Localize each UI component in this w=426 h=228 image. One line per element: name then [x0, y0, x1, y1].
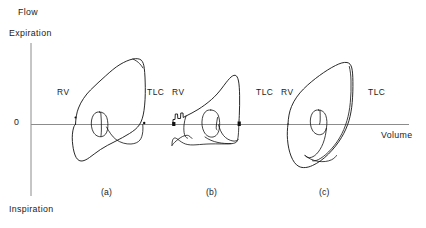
panel-c-right-marker-tlc: TLC — [368, 88, 385, 96]
flow-volume-loop-figure: Flow Expiration Inspiration 0 Volume RV … — [0, 0, 426, 228]
panel-b-tidal-inner-path — [216, 118, 217, 131]
panel-a-maximal-loop-path — [72, 59, 145, 161]
panel-b-left-marker-rv: RV — [172, 88, 185, 96]
panel-c-left-marker-rv: RV — [281, 88, 294, 96]
panel-b-rv-marker-block — [172, 122, 175, 126]
axes-group — [31, 43, 409, 196]
panel-b-caption: (b) — [206, 188, 217, 197]
panel-a-caption: (a) — [101, 188, 112, 197]
panel-a-traces — [72, 59, 145, 161]
panel-b-maximal-loop-path — [173, 75, 240, 124]
panel-a-rv-marker-dot — [75, 117, 77, 119]
panel-b-tlc-marker-block — [238, 122, 241, 127]
panel-b-lower-return-path — [172, 135, 192, 145]
y-axis-lower-direction-inspiration: Inspiration — [9, 205, 53, 214]
panel-c-second-limb-path — [313, 67, 352, 161]
panel-b-right-marker-tlc: TLC — [256, 88, 273, 96]
panel-a-tlc-marker-dot — [143, 122, 145, 124]
panel-c-tidal-inner-path — [320, 110, 321, 124]
y-axis-title-flow: Flow — [18, 8, 38, 17]
panel-b-inner-flow-2-path — [205, 137, 231, 144]
panel-b-inspiratory-limb-path — [172, 125, 239, 146]
panel-c-traces — [287, 62, 353, 167]
panel-c-caption: (c) — [319, 188, 330, 197]
x-axis-title-volume: Volume — [381, 131, 412, 140]
panel-c-inner-expiratory-path — [305, 128, 327, 158]
panel-a-left-marker-rv: RV — [57, 88, 70, 96]
origin-tick-label-zero: 0 — [14, 118, 19, 127]
panel-b-traces — [172, 75, 241, 145]
panel-b-inner-flow-path — [219, 125, 239, 141]
panel-a-right-marker-tlc: TLC — [147, 88, 164, 96]
y-axis-upper-direction-expiration: Expiration — [9, 29, 52, 38]
panel-c-tidal-loop-path — [310, 110, 327, 135]
panel-b-tidal-loop-path — [202, 110, 220, 137]
panel-b-mid-expiratory-path — [184, 116, 188, 138]
